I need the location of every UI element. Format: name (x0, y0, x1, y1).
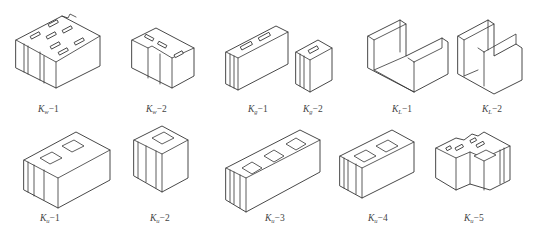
label-kl-1: KL−1 (391, 104, 412, 115)
block-kw-2 (132, 28, 194, 88)
block-ku-5 (436, 132, 510, 190)
label-kg-2: Kg−2 (302, 104, 323, 115)
label-kw-2: Kw−2 (145, 104, 167, 115)
block-kg-1 (226, 26, 288, 90)
label-ku-1: Ku−1 (39, 213, 60, 224)
label-kl-2: KL−2 (481, 104, 502, 115)
block-kg-2 (296, 40, 332, 92)
label-ku-4: Ku−4 (367, 213, 388, 224)
label-kw-1: Kw−1 (37, 104, 59, 115)
block-kw-1 (16, 14, 100, 88)
block-ku-2 (134, 126, 188, 192)
block-ku-1 (24, 132, 110, 208)
block-kl-2 (458, 20, 522, 94)
block-types-figure: Kw−1 Kw−2 Kg−1 Kg−2 KL−1 (0, 0, 534, 232)
label-kg-1: Kg−1 (247, 104, 268, 115)
block-ku-4 (340, 130, 414, 198)
block-ku-3 (226, 130, 320, 212)
label-ku-5: Ku−5 (463, 213, 484, 224)
block-kl-1 (368, 20, 448, 92)
label-ku-3: Ku−3 (264, 213, 285, 224)
label-ku-2: Ku−2 (149, 213, 170, 224)
